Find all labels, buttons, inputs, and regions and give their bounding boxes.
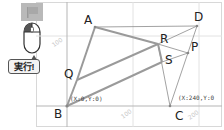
point-r-label: R	[160, 32, 168, 46]
geometry-canvas: 100 100 200 A D R P S Q B C (X:0,Y:0) (X…	[0, 0, 224, 130]
point-q-label: Q	[64, 67, 73, 81]
point-s-label: S	[165, 53, 173, 67]
tick-100-x: 100	[119, 107, 133, 119]
c-coord-label: (X:240,Y:0	[178, 94, 215, 101]
tick-100-y: 100	[50, 36, 64, 48]
tick-200-x: 200	[186, 108, 200, 120]
point-a-label: A	[84, 13, 93, 27]
point-p-label: P	[191, 40, 198, 54]
origin-coord-label: (X:0,Y:0)	[70, 95, 103, 102]
point-b-label: B	[54, 107, 62, 121]
point-d-label: D	[194, 10, 203, 24]
point-c-label: C	[175, 109, 183, 123]
